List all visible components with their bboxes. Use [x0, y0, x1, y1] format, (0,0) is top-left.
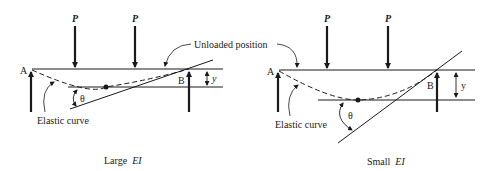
unloaded-position-label: Unloaded position — [194, 39, 268, 50]
elastic-curve — [32, 69, 189, 89]
beam-deflection-diagram: P P A B y θ Elastic curve LargeEI P P — [0, 0, 489, 171]
unloaded-leader-right — [277, 44, 297, 67]
deflection-label: y — [461, 80, 466, 91]
load-label-2: P — [385, 13, 392, 24]
support-b-label: B — [427, 80, 434, 91]
elastic-curve — [279, 70, 437, 100]
elastic-curve-leader — [289, 85, 298, 116]
angle-label: θ — [80, 93, 85, 104]
tangent-line — [338, 51, 462, 143]
deflection-label: y — [211, 73, 217, 84]
load-label-1: P — [324, 13, 331, 24]
panel-small-ei: P P A B y θ Elastic curve SmallEI — [267, 13, 475, 167]
caption-large-ei: LargeEI — [104, 155, 142, 166]
max-deflection-point — [104, 85, 109, 90]
caption-small-ei: SmallEI — [367, 156, 405, 167]
load-label-2: P — [132, 13, 139, 24]
load-label-1: P — [72, 13, 79, 24]
panel-large-ei: P P A B y θ Elastic curve LargeEI — [20, 13, 223, 166]
elastic-curve-label: Elastic curve — [275, 119, 327, 130]
support-a-label: A — [267, 66, 275, 77]
tangent-line — [70, 60, 213, 109]
elastic-curve-label: Elastic curve — [37, 115, 89, 126]
elastic-curve-leader — [44, 82, 54, 112]
unloaded-leader-left — [165, 44, 191, 66]
support-a-label: A — [20, 65, 28, 76]
max-deflection-point — [356, 98, 361, 103]
support-b-label: B — [178, 75, 185, 86]
angle-label: θ — [348, 110, 353, 121]
angle-arc — [73, 90, 77, 106]
unloaded-position-callout: Unloaded position — [165, 39, 297, 67]
